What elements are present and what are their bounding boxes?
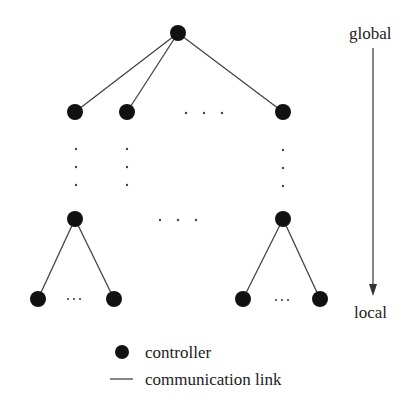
- scale-arrow: [369, 48, 377, 296]
- legend-controller-label: controller: [145, 344, 211, 361]
- legend-controller-icon: [115, 345, 129, 359]
- local-label: local: [354, 304, 387, 321]
- controller-nodes: [30, 25, 328, 307]
- legend-link-label: communication link: [145, 371, 281, 388]
- global-label: global: [349, 25, 392, 42]
- legend-symbols: [110, 345, 133, 379]
- communication-links: [38, 33, 320, 299]
